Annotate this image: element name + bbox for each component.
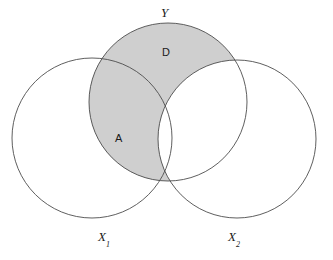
shaded-regions-group — [12, 23, 247, 218]
set-label-x2-text: X — [228, 229, 236, 244]
set-label-x1: X1 — [98, 230, 110, 247]
set-label-x1-subscript: 1 — [106, 240, 110, 249]
region-label-a-text: A — [115, 132, 122, 144]
venn-diagram-canvas — [0, 0, 333, 260]
region-label-d: D — [162, 47, 170, 58]
set-label-y: Y — [161, 6, 168, 19]
region-label-a: A — [115, 133, 122, 144]
set-label-x2: X2 — [228, 230, 240, 247]
set-label-x2-subscript: 2 — [236, 240, 240, 249]
region-label-d-text: D — [162, 46, 170, 58]
set-label-y-text: Y — [161, 5, 168, 20]
venn-diagram-figure: Y D A X1 X2 — [0, 0, 333, 260]
set-label-x1-text: X — [98, 229, 106, 244]
